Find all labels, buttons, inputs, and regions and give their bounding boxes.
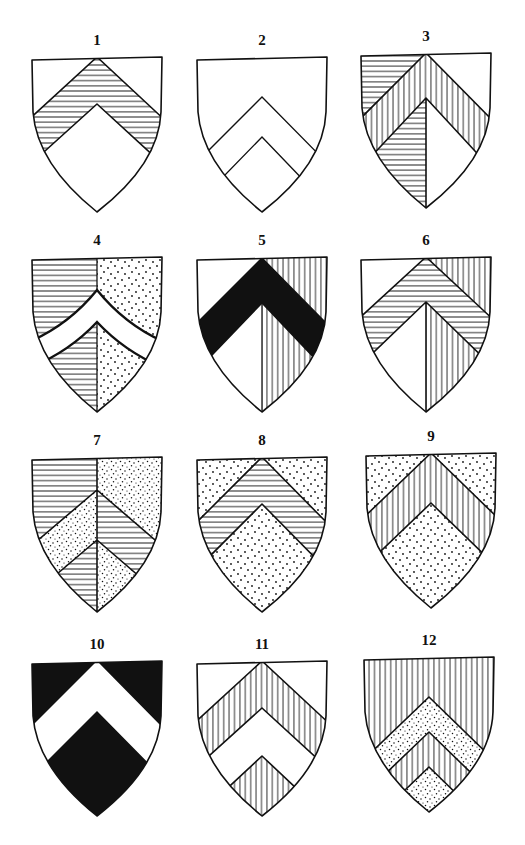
shield-number: 11 <box>187 636 337 652</box>
shield-4-graphic <box>22 252 172 417</box>
shield-5: 5 <box>187 232 337 417</box>
shield-9: 9 <box>356 428 506 613</box>
shield-7-graphic <box>22 452 172 617</box>
lower-chevron <box>189 756 334 824</box>
shield-7: 7 <box>22 432 172 617</box>
shield-11: 11 <box>187 636 337 821</box>
shield-8-graphic <box>187 452 337 617</box>
shield-2-graphic <box>187 52 337 217</box>
lower-chevron <box>356 767 501 837</box>
shield-10: 10 <box>22 636 172 821</box>
shield-number: 7 <box>22 432 172 448</box>
shield-3-graphic <box>351 48 501 213</box>
shield-11-graphic <box>187 656 337 821</box>
shield-5-graphic <box>187 252 337 417</box>
shield-6-graphic <box>351 252 501 417</box>
shield-1: 1 <box>22 32 172 217</box>
shield-number: 12 <box>354 632 504 648</box>
heraldry-figure: 1 2 3 <box>0 0 525 845</box>
shield-number: 3 <box>351 28 501 44</box>
shield-number: 5 <box>187 232 337 248</box>
shield-12: 12 <box>354 632 504 817</box>
shield-number: 4 <box>22 232 172 248</box>
shield-number: 8 <box>187 432 337 448</box>
shield-12-graphic <box>354 652 504 817</box>
shield-8: 8 <box>187 432 337 617</box>
shield-number: 2 <box>187 32 337 48</box>
shield-number: 10 <box>22 636 172 652</box>
shield-10-graphic <box>22 656 172 821</box>
shield-2: 2 <box>187 32 337 217</box>
shield-9-graphic <box>356 448 506 613</box>
shield-4: 4 <box>22 232 172 417</box>
shield-number: 1 <box>22 32 172 48</box>
shield-1-graphic <box>22 52 172 217</box>
shield-number: 6 <box>351 232 501 248</box>
shield-6: 6 <box>351 232 501 417</box>
shield-number: 9 <box>356 428 506 444</box>
shield-3: 3 <box>351 28 501 213</box>
